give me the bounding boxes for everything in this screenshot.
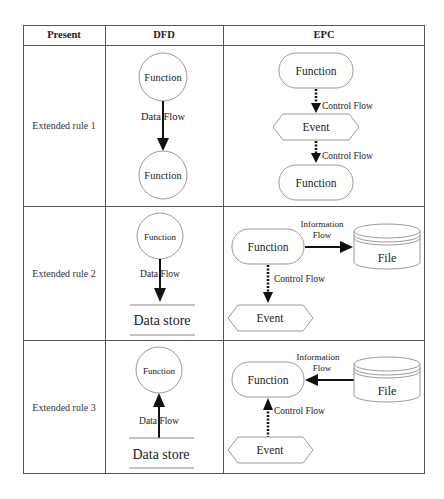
dfd-function-label: Function <box>144 170 182 181</box>
row3-epc: Function Information Flow File Control F… <box>228 352 420 463</box>
dfd-function-label: Function <box>143 366 176 376</box>
data-store-label: Data store <box>133 313 190 328</box>
file-label: File <box>378 384 397 398</box>
epc-event-label: Event <box>257 312 285 324</box>
epc-event-label: Event <box>303 121 331 133</box>
epc-function-label: Function <box>248 374 289 386</box>
control-flow-label: Control Flow <box>322 151 373 161</box>
information-flow-label: Flow <box>313 230 332 240</box>
arrow-down-icon <box>263 292 273 303</box>
row2-dfd: Function Data Flow Data store <box>130 213 195 335</box>
data-flow-label: Data Flow <box>140 269 180 279</box>
dfd-function-label: Function <box>144 232 177 242</box>
diagram-canvas: Function Data Flow Function Function Con… <box>0 0 444 499</box>
epc-function-label: Function <box>248 241 289 253</box>
arrow-right-icon <box>340 241 353 253</box>
row2-epc: Function Information Flow File Control F… <box>228 219 420 331</box>
row1-dfd: Function Data Flow Function <box>139 53 187 199</box>
arrow-down-icon <box>311 103 321 113</box>
epc-function-label: Function <box>296 65 337 77</box>
epc-function-label: Function <box>296 177 337 189</box>
row3-dfd: Function Data Flow Data store <box>129 347 194 468</box>
information-flow-label: Information <box>301 219 344 229</box>
control-flow-label: Control Flow <box>274 406 325 416</box>
data-flow-label: Data Flow <box>141 111 185 122</box>
epc-event-label: Event <box>257 444 285 456</box>
information-flow-label: Information <box>297 352 340 362</box>
data-flow-label: Data Flow <box>139 416 179 426</box>
arrow-down-icon <box>154 288 166 302</box>
file-label: File <box>378 251 397 265</box>
control-flow-label: Control Flow <box>322 101 373 111</box>
data-store-label: Data store <box>132 447 189 462</box>
row1-epc: Function Control Flow Event Control Flow… <box>273 53 373 200</box>
control-flow-label: Control Flow <box>274 274 325 284</box>
arrow-up-icon <box>153 393 165 407</box>
arrow-down-icon <box>157 138 169 151</box>
arrow-down-icon <box>311 153 321 163</box>
information-flow-label: Flow <box>313 363 332 373</box>
dfd-function-label: Function <box>144 72 182 83</box>
